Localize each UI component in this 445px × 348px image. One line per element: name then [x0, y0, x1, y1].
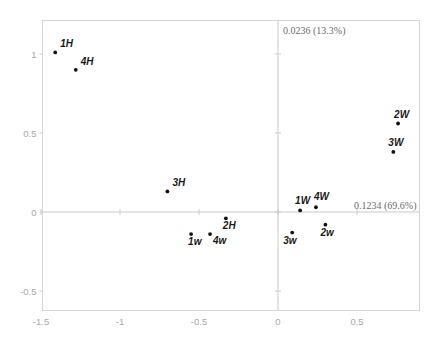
data-point-label: 2W: [393, 109, 411, 120]
data-point-marker: [298, 209, 302, 213]
y-axis-caption: 0.0236 (13.3%): [283, 25, 346, 37]
data-point-label: 2H: [222, 220, 237, 231]
data-point-label: 3H: [172, 177, 186, 188]
y-tick-label: 1: [31, 49, 36, 60]
data-point-marker: [314, 205, 318, 209]
scatter-plot-figure: -1.5-1-0.500.5 10.50-0.5 0.0236 (13.3%) …: [0, 0, 445, 348]
data-point-label: 2w: [319, 227, 335, 238]
data-point-marker: [391, 150, 395, 154]
y-tick-label: 0: [31, 207, 36, 218]
x-tick-label: 0: [275, 316, 280, 327]
data-point-label: 4W: [313, 191, 331, 202]
data-point-label: 1W: [295, 195, 312, 206]
plot-canvas: -1.5-1-0.500.5 10.50-0.5 0.0236 (13.3%) …: [0, 0, 445, 348]
data-point-marker: [166, 190, 170, 194]
data-point-marker: [208, 232, 212, 236]
data-point-label: 4H: [80, 56, 95, 67]
y-tick-label: -0.5: [20, 286, 36, 297]
x-tick-label: -1: [116, 316, 124, 327]
x-axis-caption: 0.1234 (69.6%): [354, 200, 417, 212]
x-tick-label: -0.5: [191, 316, 207, 327]
x-tick-label: 0.5: [350, 316, 363, 327]
data-point-marker: [396, 122, 400, 126]
data-point-marker: [74, 68, 78, 72]
data-point-label: 4w: [212, 235, 228, 246]
y-tick-label: 0.5: [23, 128, 36, 139]
data-point-label: 3w: [283, 235, 298, 246]
data-point-label: 1H: [60, 38, 74, 49]
data-point-label: 1w: [188, 236, 203, 247]
x-tick-label: -1.5: [33, 316, 49, 327]
data-point-marker: [53, 51, 57, 55]
data-point-label: 3W: [388, 137, 405, 148]
figure-background: [0, 0, 445, 348]
